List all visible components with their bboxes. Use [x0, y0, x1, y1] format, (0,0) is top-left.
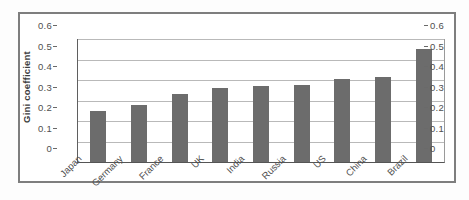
- y-axis-tick-mark-right: [424, 46, 428, 47]
- y-axis-tick-mark-left: [53, 148, 57, 149]
- y-axis-tick-mark-left: [53, 107, 57, 108]
- y-axis-tick-mark-right: [424, 148, 428, 149]
- bar-uk: [212, 88, 228, 162]
- y-axis-tick-label-right: 0: [430, 143, 460, 154]
- y-axis-tick-label-left: 0.3: [18, 82, 52, 93]
- y-axis-tick-label-right: 0.4: [430, 61, 460, 72]
- y-axis-tick-label-right: 0.3: [430, 82, 460, 93]
- bar-france: [172, 94, 188, 162]
- y-axis-tick-mark-right: [424, 107, 428, 108]
- bar-japan: [90, 111, 106, 162]
- y-axis-tick-label-left: 0.5: [18, 41, 52, 52]
- gridline: [78, 60, 444, 61]
- bar-russia: [294, 85, 310, 162]
- y-axis-tick-mark-right: [424, 128, 428, 129]
- y-axis-tick-label-right: 0.2: [430, 102, 460, 113]
- y-axis-tick-label-right: 0.6: [430, 20, 460, 31]
- y-axis-tick-label-left: 0.2: [18, 102, 52, 113]
- y-axis-tick-mark-right: [424, 87, 428, 88]
- y-axis-tick-label-left: 0.6: [18, 20, 52, 31]
- y-axis-tick-mark-left: [53, 46, 57, 47]
- bar-germany: [131, 105, 147, 162]
- y-axis-tick-label-right: 0.5: [430, 41, 460, 52]
- y-axis-tick-label-left: 0: [18, 143, 52, 154]
- gridline: [78, 39, 444, 40]
- y-axis-tick-mark-left: [53, 66, 57, 67]
- y-axis-tick-label-left: 0.1: [18, 123, 52, 134]
- plot-area: [77, 39, 445, 163]
- y-axis-tick-label-right: 0.1: [430, 123, 460, 134]
- bar-india: [253, 86, 269, 162]
- y-axis-tick-mark-left: [53, 87, 57, 88]
- figure-canvas: Gini coefficient 000.10.10.20.20.30.30.4…: [0, 0, 469, 200]
- y-axis-tick-label-left: 0.4: [18, 61, 52, 72]
- bar-us: [334, 79, 350, 162]
- y-axis-tick-mark-left: [53, 128, 57, 129]
- y-axis-tick-mark-right: [424, 25, 428, 26]
- y-axis-tick-mark-left: [53, 25, 57, 26]
- bar-china: [375, 77, 391, 162]
- y-axis-tick-mark-right: [424, 66, 428, 67]
